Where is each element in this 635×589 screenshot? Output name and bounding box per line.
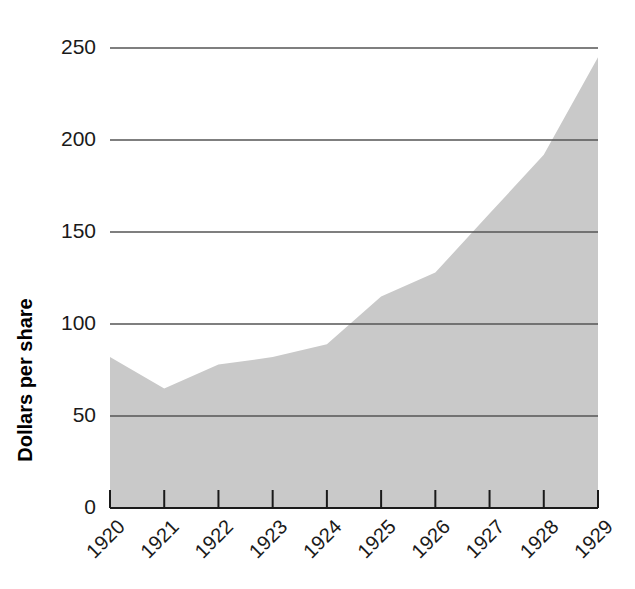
- y-tick-label-100: 100: [61, 311, 96, 334]
- y-tick-label-150: 150: [61, 219, 96, 242]
- chart-canvas: 050100150200250 192019211922192319241925…: [0, 0, 635, 589]
- y-tick-label-200: 200: [61, 127, 96, 150]
- y-tick-label-50: 50: [73, 403, 96, 426]
- y-tick-label-250: 250: [61, 35, 96, 58]
- y-axis-title: Dollars per share: [14, 298, 36, 461]
- y-tick-label-0: 0: [84, 495, 96, 518]
- area-chart: 050100150200250 192019211922192319241925…: [0, 0, 635, 589]
